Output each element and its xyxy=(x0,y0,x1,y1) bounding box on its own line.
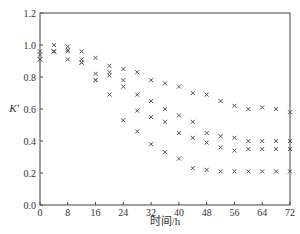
x-marker-icon xyxy=(191,120,195,124)
x-marker-icon xyxy=(260,147,264,151)
y-tick-label: 1.0 xyxy=(24,40,37,51)
y-tick-label: 0.2 xyxy=(24,168,37,179)
x-tick-label: 0 xyxy=(38,207,43,218)
series-series-4 xyxy=(38,49,292,173)
x-marker-icon xyxy=(66,57,70,61)
x-marker-icon xyxy=(121,78,125,82)
x-tick-label: 72 xyxy=(285,207,295,218)
x-marker-icon xyxy=(219,145,223,149)
x-marker-icon xyxy=(205,168,209,172)
x-marker-icon xyxy=(232,136,236,140)
x-marker-icon xyxy=(246,107,250,111)
scatter-chart: 081624324048566472 0.00.20.40.60.81.01.2… xyxy=(0,0,300,234)
x-marker-icon xyxy=(260,105,264,109)
x-marker-icon xyxy=(121,118,125,122)
x-marker-icon xyxy=(205,141,209,145)
x-marker-icon xyxy=(205,93,209,97)
x-marker-icon xyxy=(177,85,181,89)
x-marker-icon xyxy=(191,91,195,95)
x-marker-icon xyxy=(149,99,153,103)
x-marker-icon xyxy=(246,139,250,143)
x-marker-icon xyxy=(177,157,181,161)
y-tick-label: 0.6 xyxy=(24,104,37,115)
x-marker-icon xyxy=(191,166,195,170)
x-marker-icon xyxy=(94,72,98,76)
x-marker-icon xyxy=(274,107,278,111)
y-tick-label: 0.0 xyxy=(24,200,37,211)
x-tick-label: 16 xyxy=(91,207,101,218)
x-marker-icon xyxy=(232,104,236,108)
x-marker-icon xyxy=(163,81,167,85)
x-marker-icon xyxy=(232,149,236,153)
x-tick-label: 8 xyxy=(65,207,70,218)
x-marker-icon xyxy=(177,131,181,135)
series-series-2 xyxy=(38,48,292,143)
x-tick-label: 24 xyxy=(118,207,128,218)
x-marker-icon xyxy=(135,70,139,74)
x-marker-icon xyxy=(121,67,125,71)
x-marker-icon xyxy=(107,93,111,97)
x-axis-title: 时间/h xyxy=(150,215,181,227)
x-marker-icon xyxy=(149,78,153,82)
x-marker-icon xyxy=(94,56,98,60)
x-marker-icon xyxy=(52,43,56,47)
x-marker-icon xyxy=(80,49,84,53)
x-tick-label: 56 xyxy=(229,207,239,218)
x-marker-icon xyxy=(94,78,98,82)
y-tick-label: 0.4 xyxy=(24,136,37,147)
x-marker-icon xyxy=(149,115,153,119)
x-marker-icon xyxy=(52,49,56,53)
x-marker-icon xyxy=(274,147,278,151)
x-marker-icon xyxy=(163,120,167,124)
series-series-1 xyxy=(38,43,292,114)
x-marker-icon xyxy=(177,113,181,117)
x-marker-icon xyxy=(149,142,153,146)
y-axis-title: K' xyxy=(8,102,19,114)
x-marker-icon xyxy=(135,129,139,133)
x-marker-icon xyxy=(107,73,111,77)
x-marker-icon xyxy=(219,99,223,103)
x-marker-icon xyxy=(219,169,223,173)
data-points xyxy=(38,43,292,173)
x-marker-icon xyxy=(274,169,278,173)
x-marker-icon xyxy=(80,61,84,65)
series-series-3 xyxy=(38,49,292,152)
x-marker-icon xyxy=(163,150,167,154)
x-marker-icon xyxy=(191,136,195,140)
x-tick-label: 64 xyxy=(257,207,267,218)
x-marker-icon xyxy=(219,134,223,138)
x-tick-label: 48 xyxy=(202,207,212,218)
x-marker-icon xyxy=(246,169,250,173)
x-marker-icon xyxy=(260,139,264,143)
x-marker-icon xyxy=(135,93,139,97)
y-tick-label: 1.2 xyxy=(24,8,37,19)
x-marker-icon xyxy=(205,131,209,135)
y-tick-label: 0.8 xyxy=(24,72,37,83)
x-marker-icon xyxy=(260,169,264,173)
x-marker-icon xyxy=(246,147,250,151)
x-marker-icon xyxy=(163,107,167,111)
x-marker-icon xyxy=(121,85,125,89)
x-marker-icon xyxy=(135,109,139,113)
x-marker-icon xyxy=(232,169,236,173)
x-marker-icon xyxy=(107,64,111,68)
x-marker-icon xyxy=(274,139,278,143)
